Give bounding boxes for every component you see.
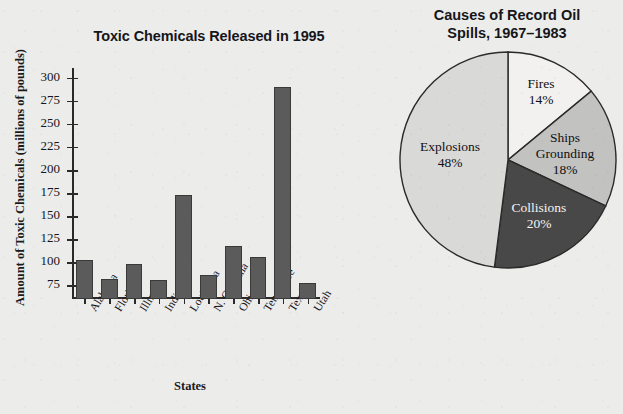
bar-chart-figure: Toxic Chemicals Released in 1995 Amount … [0, 0, 390, 414]
pie-slice-collisions-name: Collisions [493, 200, 585, 216]
pie-slice-label-explosions: Explosions 48% [402, 139, 498, 171]
x-tick-mark [208, 299, 210, 304]
y-tick-150: 150 [67, 216, 78, 218]
y-axis-line [72, 68, 74, 299]
pie-chart-title: Causes of Record Oil Spills, 1967–1983 [396, 6, 618, 42]
bar-florida [101, 279, 118, 299]
bar-chart-plot-area: 75100125150175200225250275300 AlabamaFlo… [72, 68, 320, 299]
pie-slice-label-ships-grounding: Ships Grounding 18% [521, 130, 609, 178]
y-tick-300: 300 [67, 78, 78, 80]
pie-slice-explosions-pct: 48% [402, 155, 498, 171]
y-tick-250: 250 [67, 124, 78, 126]
y-tick-225: 225 [67, 147, 78, 149]
pie-chart-figure: Causes of Record Oil Spills, 1967–1983 F… [390, 0, 623, 414]
y-tick-label: 125 [41, 230, 61, 246]
x-tick-mark [134, 299, 136, 304]
bar-utah [299, 283, 316, 299]
pie-slice-ships-pct: 18% [521, 162, 609, 178]
x-tick-mark [159, 299, 161, 304]
pie-chart-title-line2: Spills, 1967–1983 [396, 24, 618, 42]
x-tick-mark [233, 299, 235, 304]
bar-louisiana [175, 195, 192, 299]
x-tick-mark [109, 299, 111, 304]
bar-chart-x-axis-title: States [60, 379, 320, 394]
y-tick-275: 275 [67, 101, 78, 103]
pie-slice-fires-pct: 14% [508, 92, 574, 108]
x-tick-mark [308, 299, 310, 304]
x-tick-mark [184, 299, 186, 304]
pie-slice-explosions-name: Explosions [402, 139, 498, 155]
y-tick-label: 300 [41, 69, 61, 85]
x-tick-mark [258, 299, 260, 304]
bar-illinois [126, 264, 143, 299]
x-tick-mark [84, 299, 86, 304]
x-tick-mark [283, 299, 285, 304]
pie-slice-label-collisions: Collisions 20% [493, 200, 585, 232]
y-tick-175: 175 [67, 193, 78, 195]
pie-slice-ships-name1: Ships [521, 130, 609, 146]
pie-slice-ships-name2: Grounding [521, 146, 609, 162]
pie-chart-title-line1: Causes of Record Oil [396, 6, 618, 24]
bar-chart-y-axis-title: Amount of Toxic Chemicals (millions of p… [13, 28, 28, 328]
y-tick-label: 75 [47, 276, 60, 292]
bar-ohio [225, 246, 242, 299]
y-tick-label: 150 [41, 207, 61, 223]
y-tick-label: 225 [41, 138, 61, 154]
bar-texas [274, 87, 291, 299]
y-tick-label: 200 [41, 161, 61, 177]
y-tick-label: 100 [41, 253, 61, 269]
pie-slice-collisions-pct: 20% [493, 216, 585, 232]
bar-n-carolina [200, 275, 217, 299]
bar-alabama [76, 260, 93, 299]
y-tick-200: 200 [67, 170, 78, 172]
y-tick-label: 275 [41, 92, 61, 108]
pie-slice-fires-name: Fires [508, 76, 574, 92]
bar-chart-title: Toxic Chemicals Released in 1995 [44, 28, 374, 44]
y-tick-label: 250 [41, 115, 61, 131]
bar-indiana [150, 280, 167, 299]
bar-tennessee [250, 257, 267, 300]
pie-slice-label-fires: Fires 14% [508, 76, 574, 108]
y-tick-125: 125 [67, 239, 78, 241]
y-tick-label: 175 [41, 184, 61, 200]
